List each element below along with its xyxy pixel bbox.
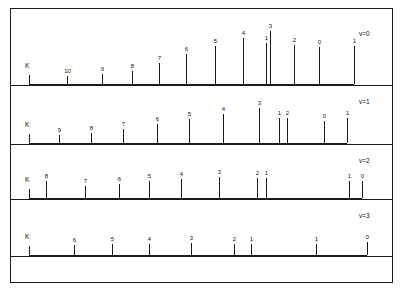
spectral-line	[259, 108, 260, 143]
spectral-line-label: 0	[318, 39, 321, 45]
spectral-line-label: 1	[265, 35, 268, 41]
spectral-line-label: 3	[190, 235, 193, 241]
panel-origin-tick	[29, 75, 30, 84]
spectral-line	[367, 242, 368, 255]
spectral-line-label: 1	[315, 236, 318, 242]
spectral-line-label: 1	[348, 173, 351, 179]
spectral-line	[257, 178, 258, 198]
panel-origin-tick	[29, 189, 30, 198]
spectral-line-label: 3	[218, 169, 221, 175]
vibrational-level-label: v=2	[359, 158, 370, 165]
spectral-line-label: 0	[323, 113, 326, 119]
spectral-line-label: 6	[185, 46, 188, 52]
spectral-line-label: 6	[118, 176, 121, 182]
spectral-line	[112, 244, 113, 255]
spectral-line	[46, 181, 47, 198]
spectral-line	[266, 178, 267, 198]
spectral-line-label: 4	[148, 236, 151, 242]
spectral-line-label: 0	[366, 234, 369, 240]
spectral-line	[243, 38, 244, 84]
spectral-line	[354, 46, 355, 84]
spectral-line-label: 8	[131, 63, 134, 69]
spectral-line	[74, 245, 75, 255]
spectral-line-label: 5	[148, 173, 151, 179]
spectral-line	[349, 181, 350, 198]
spectral-line	[85, 186, 86, 198]
spectral-line-label: 5	[188, 111, 191, 117]
spectral-line-label: 1	[265, 170, 268, 176]
spectral-line	[234, 244, 235, 255]
spectral-line	[215, 46, 216, 84]
spectral-line	[294, 45, 295, 84]
vibrational-level-label: v=3	[359, 213, 370, 220]
spectral-line-label: 4	[222, 106, 225, 112]
spectral-line-label: 4	[242, 30, 245, 36]
spectral-line-label: 7	[122, 121, 125, 127]
vibrational-level-label: v=0	[359, 31, 370, 38]
spectral-line	[157, 124, 158, 143]
spectral-line-label: 1	[278, 110, 281, 116]
spectrum-panel: Kv=365432110	[11, 199, 392, 256]
spectral-line-label: 2	[233, 236, 236, 242]
figure-root: Kv=01098765413201Kv=198765431201Kv=28765…	[0, 0, 403, 292]
spectral-line	[119, 184, 120, 198]
spectral-line	[266, 43, 267, 84]
vibrational-level-label: v=1	[359, 99, 370, 106]
spectrum-panel: Kv=01098765413201	[11, 9, 392, 85]
spectral-line	[132, 71, 133, 84]
k-series-label: K	[25, 122, 29, 129]
spectral-line	[347, 118, 348, 143]
spectral-line	[59, 135, 60, 143]
spectral-line-label: 2	[286, 110, 289, 116]
spectral-line-label: 1	[250, 236, 253, 242]
spectral-line-label: 3	[269, 23, 272, 29]
panel-origin-tick	[29, 134, 30, 143]
spectral-line	[279, 118, 280, 143]
spectral-line	[123, 129, 124, 143]
spectral-line	[251, 244, 252, 255]
spectral-line	[191, 243, 192, 255]
panel-separator	[11, 199, 392, 200]
spectrum-panel: Kv=28765432110	[11, 144, 392, 199]
spectral-line-label: 1	[346, 110, 349, 116]
spectral-line	[287, 118, 288, 143]
spectral-line-label: 2	[256, 170, 259, 176]
spectral-line-label: 2	[293, 37, 296, 43]
k-series-label: K	[25, 234, 29, 241]
spectral-line	[270, 31, 271, 84]
spectral-line	[316, 244, 317, 255]
spectral-line	[186, 54, 187, 84]
spectral-line	[189, 119, 190, 143]
spectral-line-label: 1	[353, 38, 356, 44]
spectral-line	[149, 181, 150, 198]
spectral-line-label: 7	[158, 55, 161, 61]
spectral-line	[67, 76, 68, 84]
spectral-line-label: 9	[58, 127, 61, 133]
spectral-line	[324, 121, 325, 143]
spectral-line-label: 0	[361, 173, 364, 179]
spectral-line	[362, 181, 363, 198]
spectral-line-label: 5	[111, 236, 114, 242]
spectral-line-label: 6	[156, 116, 159, 122]
spectral-line-label: 8	[45, 173, 48, 179]
spectral-line-label: 3	[258, 100, 261, 106]
figure-border: Kv=01098765413201Kv=198765431201Kv=28765…	[10, 8, 393, 283]
spectral-line	[181, 179, 182, 198]
spectral-line-label: 5	[214, 38, 217, 44]
spectral-line	[149, 244, 150, 255]
spectral-line	[159, 63, 160, 84]
panel-separator	[11, 256, 392, 257]
spectral-line	[91, 133, 92, 143]
spectral-line	[223, 114, 224, 143]
spectral-line	[219, 177, 220, 198]
spectral-line	[102, 74, 103, 84]
spectral-line-label: 6	[73, 237, 76, 243]
spectral-line-label: 4	[180, 171, 183, 177]
spectral-line-label: 10	[64, 68, 71, 74]
panel-separator	[11, 144, 392, 145]
k-series-label: K	[25, 177, 29, 184]
spectral-line-label: 8	[90, 125, 93, 131]
spectral-line-label: 7	[84, 178, 87, 184]
spectrum-panel: Kv=198765431201	[11, 85, 392, 144]
panel-separator	[11, 85, 392, 86]
